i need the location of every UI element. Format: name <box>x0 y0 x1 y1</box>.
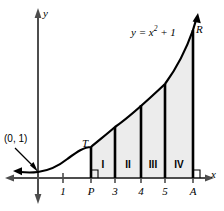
x-axis-arrow-left <box>5 175 14 182</box>
x-tick-label-4: 4 <box>134 186 148 197</box>
curve-equation-prefix: y = x <box>131 26 154 38</box>
x-tick-label-A: A <box>186 186 200 197</box>
point-label-T: T <box>82 138 88 149</box>
region-label-4: IV <box>172 160 186 170</box>
curve-equation-label: y = x2 + 1 <box>131 27 176 38</box>
figure-canvas: y x y = x2 + 1 R T (0, 1) 1 P 3 4 5 A I … <box>0 0 224 211</box>
curve-arrow-left <box>13 167 22 175</box>
y-intercept-label: (0, 1) <box>4 134 27 144</box>
x-tick-label-5: 5 <box>158 186 172 197</box>
y-axis-label: y <box>43 8 48 19</box>
graph-svg <box>0 0 224 211</box>
curve-equation-suffix: + 1 <box>157 26 175 38</box>
x-tick-label-P: P <box>84 186 98 197</box>
intercept-leader-line <box>15 148 34 167</box>
point-label-R: R <box>196 24 203 35</box>
region-label-1: I <box>96 160 110 170</box>
x-tick-label-1: 1 <box>56 186 70 197</box>
region-label-3: III <box>146 160 160 170</box>
x-tick-label-3: 3 <box>108 186 122 197</box>
curve-arrow-up-right <box>193 13 201 23</box>
y-axis-arrow-down <box>35 194 42 204</box>
y-axis-arrow-up <box>35 8 42 18</box>
x-axis-label: x <box>211 169 216 180</box>
region-label-2: II <box>121 160 135 170</box>
